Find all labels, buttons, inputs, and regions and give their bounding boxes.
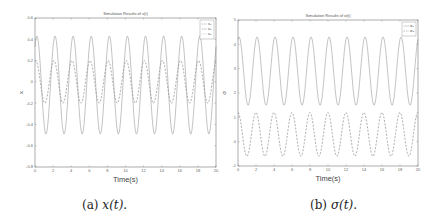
panel-b: 02468101214161820-1012345Simulation Resu… — [0, 0, 443, 190]
x-tick-label: 0 — [237, 167, 240, 172]
caption-b: (b) σ(t). — [310, 198, 357, 212]
caption-a-suffix: . — [123, 198, 127, 212]
x-axis-label: Time(s) — [315, 174, 341, 183]
y-tick-label: 3 — [234, 66, 237, 71]
chart-sigma: 02468101214161820-1012345Simulation Resu… — [0, 0, 443, 190]
x-tick-label: 20 — [416, 167, 421, 172]
x-tick-label: 16 — [380, 167, 385, 172]
x-tick-label: 2 — [255, 167, 258, 172]
y-tick-label: 5 — [234, 17, 237, 22]
x-tick-label: 4 — [273, 167, 276, 172]
y-tick-label: 1 — [234, 115, 237, 120]
caption-b-suffix: . — [353, 198, 357, 212]
legend: σ₁σ₂ — [402, 22, 416, 36]
series-sigma2 — [238, 112, 418, 156]
y-tick-label: 2 — [234, 90, 237, 95]
x-tick-label: 12 — [344, 167, 349, 172]
y-tick-label: 0 — [234, 139, 237, 144]
caption-b-math: σ(t) — [331, 198, 353, 212]
x-tick-label: 18 — [398, 167, 403, 172]
plot-area-frame — [238, 20, 418, 166]
x-tick-label: 8 — [309, 167, 312, 172]
x-tick-label: 10 — [326, 167, 331, 172]
caption-a: (a) x(t). — [82, 198, 127, 212]
caption-b-prefix: (b) — [310, 198, 327, 212]
caption-a-prefix: (a) — [82, 198, 99, 212]
y-axis-label: σ — [221, 91, 227, 95]
caption-a-math: x(t) — [102, 198, 123, 212]
series-sigma1 — [238, 37, 418, 105]
y-tick-label: 4 — [234, 42, 237, 47]
chart-title: Simulation Results of σ(t) — [306, 13, 352, 18]
legend-entry-sigma2: σ₂ — [410, 28, 414, 33]
x-tick-label: 6 — [291, 167, 294, 172]
x-tick-label: 14 — [362, 167, 367, 172]
